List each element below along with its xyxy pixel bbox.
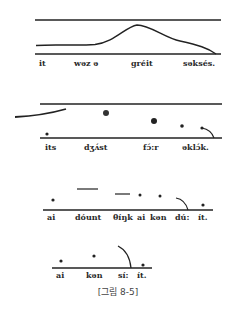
falling-arc (118, 246, 131, 268)
word-label: dóunt (75, 212, 102, 222)
falling-arc (202, 128, 214, 138)
word-label: gréit (131, 58, 153, 68)
pitch-dot (92, 254, 95, 257)
pitch-dot-stressed (103, 110, 109, 116)
panel-2: its dʒʌ́st fɔ́:r əklɔ́k. (15, 104, 222, 152)
word-label: səksés. (183, 58, 215, 68)
word-label: wəz ə (73, 58, 98, 68)
falling-arc (176, 198, 188, 210)
word-label: fɔ́:r (143, 142, 159, 152)
word-label: θíŋk (113, 212, 133, 222)
word-label: sí: (118, 270, 129, 280)
word-label: dú: (175, 212, 189, 222)
word-label: ít. (137, 270, 147, 280)
word-label: ít. (198, 212, 208, 222)
word-label: dʒʌ́st (84, 142, 108, 152)
panel-3: ai dóunt θíŋk ai kən dú: ít. (43, 189, 213, 222)
word-label: its (45, 142, 57, 152)
figure-caption: [그림 8-5] (98, 286, 139, 297)
panel-1: it wəz ə gréit səksés. (35, 20, 221, 68)
word-label: kən (86, 270, 103, 280)
pitch-dot (201, 203, 204, 206)
pitch-dot (51, 198, 54, 201)
pitch-stroke (15, 109, 66, 117)
word-label: ai (47, 212, 55, 222)
pitch-dot-stressed (151, 118, 157, 124)
pitch-dot (141, 263, 144, 266)
pitch-dot (45, 132, 48, 135)
word-label: əklɔ́k. (182, 142, 209, 152)
word-label: kən (150, 212, 167, 222)
word-label: it (39, 58, 46, 68)
pitch-dot (139, 194, 142, 197)
pitch-dot (59, 259, 62, 262)
intonation-diagram: it wəz ə gréit səksés. its dʒʌ́st fɔ́:r … (0, 0, 236, 312)
word-label: ai (56, 270, 64, 280)
pitch-contour (36, 25, 216, 54)
pitch-dot (159, 195, 162, 198)
panel-4: ai kən sí: ít. (52, 246, 152, 280)
pitch-dot (180, 124, 184, 128)
word-label: ai (137, 212, 145, 222)
